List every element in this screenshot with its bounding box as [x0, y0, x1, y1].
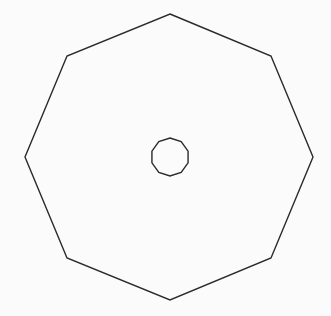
outer-octagon [25, 14, 313, 300]
inner-polygon [152, 138, 188, 176]
diagram-canvas [0, 0, 331, 316]
